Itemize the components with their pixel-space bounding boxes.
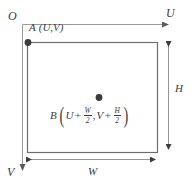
point-b-name: B — [50, 110, 57, 121]
v-fraction-denominator: 2 — [114, 116, 120, 124]
point-b-separator: , — [93, 110, 96, 121]
point-b-v-plus: + — [105, 110, 111, 121]
close-paren-icon: ) — [123, 106, 128, 126]
main-rectangle — [28, 43, 158, 153]
v-axis-label: V — [7, 166, 14, 178]
point-a-label: A(U,V) — [29, 22, 63, 33]
u-fraction-denominator: 2 — [85, 116, 91, 124]
u-axis-label: U — [166, 7, 175, 19]
diagram-canvas: O U V A(U,V) B ( U + W 2 , V + H 2 ) H W — [0, 0, 196, 188]
point-b-v-base: V — [97, 110, 104, 121]
point-b-dot — [96, 94, 103, 101]
point-b-v-fraction: H 2 — [114, 107, 121, 124]
v-fraction-numerator: H — [114, 107, 121, 115]
open-paren-icon: ( — [59, 106, 64, 126]
height-label: H — [175, 83, 183, 94]
point-b-u-fraction: W 2 — [84, 107, 92, 124]
point-b-u-base: U — [65, 110, 73, 121]
point-b-u-plus: + — [75, 110, 81, 121]
point-b-formula: B ( U + W 2 , V + H 2 ) — [50, 106, 130, 126]
point-a-coords: (U,V) — [39, 21, 64, 33]
point-a-dot — [25, 39, 32, 46]
origin-label: O — [8, 10, 17, 22]
u-fraction-numerator: W — [84, 107, 92, 115]
point-a-name: A — [29, 21, 36, 33]
width-label: W — [88, 166, 97, 177]
